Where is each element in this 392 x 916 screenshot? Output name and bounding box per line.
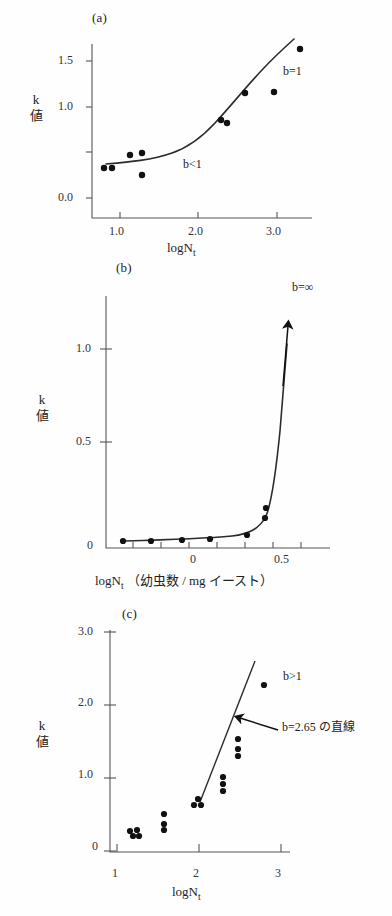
panel-c-plot — [0, 600, 392, 916]
panel-a-data-point — [271, 89, 277, 95]
panel-a-data-point — [242, 90, 248, 96]
panel-c-data-point — [136, 833, 142, 839]
panel-c-data-point — [161, 827, 167, 833]
panel-a-data-point — [101, 165, 107, 171]
panel-c-data-point — [161, 821, 167, 827]
panel-a-data-point — [218, 117, 224, 123]
panel-c-data-point — [235, 746, 241, 752]
panel-c-data-point — [191, 802, 197, 808]
panel-b: (b) k 値 1.0 0.5 0 0 0.5 logNt （幼虫数 / mg … — [0, 256, 392, 600]
panel-a-axis-lines — [92, 44, 312, 218]
panel-b-fit-curve — [122, 344, 287, 541]
panel-b-data-point — [179, 537, 185, 543]
panel-b-data-point — [148, 538, 154, 544]
panel-a-data-point — [224, 120, 230, 126]
panel-a-data-point — [139, 150, 145, 156]
panel-c-data-point — [195, 796, 201, 802]
panel-a: (a) k 値 1.5 1.0 0.0 1.0 2.0 3.0 logNt b<… — [0, 0, 392, 256]
panel-b-data-point — [244, 532, 250, 538]
panel-b-arrow — [283, 326, 288, 386]
panel-b-data-point — [262, 515, 268, 521]
panel-c-annotation-arrow — [240, 718, 278, 730]
panel-a-data-point — [109, 165, 115, 171]
panel-c-data-point — [220, 788, 226, 794]
panel-c-data-point — [130, 833, 136, 839]
panel-c-fit-line — [200, 661, 255, 802]
panel-c-data-point — [161, 811, 167, 817]
panel-b-data-point — [207, 536, 213, 542]
panel-c-data-point — [235, 753, 241, 759]
figure-root: (a) k 値 1.5 1.0 0.0 1.0 2.0 3.0 logNt b<… — [0, 0, 392, 916]
panel-a-data-point — [297, 46, 303, 52]
panel-b-data-point — [263, 505, 269, 511]
panel-c-data-point — [134, 827, 140, 833]
panel-c-data-point — [261, 682, 267, 688]
panel-c: (c) k 値 3.0 2.0 1.0 0 1 2 3 logNt b>1 b=… — [0, 600, 392, 916]
panel-c-data-point — [220, 781, 226, 787]
panel-c-data-point — [198, 802, 204, 808]
panel-b-axis-lines — [106, 296, 330, 548]
panel-a-fit-curve — [106, 39, 294, 164]
panel-a-plot — [0, 0, 392, 256]
panel-a-data-point — [139, 172, 145, 178]
panel-a-data-point — [127, 152, 133, 158]
panel-c-data-point — [235, 736, 241, 742]
panel-b-plot — [0, 256, 392, 600]
panel-c-axis-lines — [110, 630, 290, 852]
panel-c-data-point — [220, 774, 226, 780]
panel-b-data-point — [120, 538, 126, 544]
